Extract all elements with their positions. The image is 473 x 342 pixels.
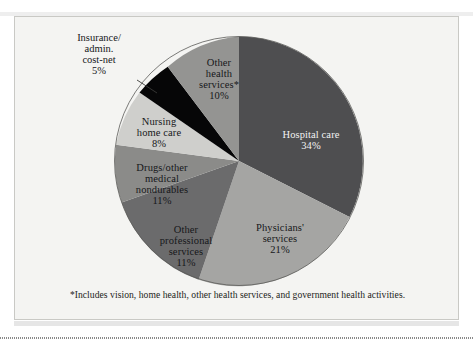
slice-label-percent: 5% xyxy=(51,65,147,76)
slice-label-insurance-admin-cost-net: Insurance/ admin. cost-net 5% xyxy=(51,32,147,77)
figure-panel: Hospital care 34% Physicians' services 2… xyxy=(14,16,459,320)
bottom-gray-band xyxy=(14,321,459,326)
slice-label-name-line-1: Insurance/ xyxy=(51,32,147,43)
slice-label-name-line-2: admin. xyxy=(51,43,147,54)
pie-chart: Hospital care 34% Physicians' services 2… xyxy=(15,17,460,321)
slice-label-name-line-3: cost-net xyxy=(51,54,147,65)
pie-slices xyxy=(115,37,363,287)
bottom-dotted-rule xyxy=(0,337,473,339)
chart-footnote: *Includes vision, home health, other hea… xyxy=(15,289,460,300)
